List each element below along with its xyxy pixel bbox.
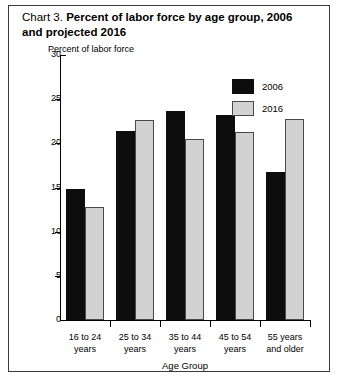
category-label-line1: 55 years <box>257 331 313 343</box>
y-axis-tick: 30 <box>0 55 61 56</box>
bar-2016 <box>235 132 254 320</box>
x-axis-category-label: 25 to 34years <box>107 331 163 355</box>
x-axis-tick-mark <box>260 321 261 327</box>
chart-title-main: Percent of labor force by age group, 200… <box>22 11 292 38</box>
y-axis-tick-label: 15 <box>15 182 61 192</box>
bar-2006 <box>266 172 285 320</box>
bar-2006 <box>66 189 85 320</box>
x-axis-tick-mark <box>210 321 211 327</box>
y-axis-tick: 15 <box>0 188 61 189</box>
category-label-line1: 45 to 54 <box>207 331 263 343</box>
bar-2006 <box>116 131 135 320</box>
legend-item: 2016 <box>232 101 283 116</box>
category-label-line2: years <box>207 343 263 355</box>
x-axis-tick-mark <box>110 321 111 327</box>
category-label-line2: years <box>107 343 163 355</box>
legend-label: 2016 <box>262 103 283 114</box>
x-axis-category-label: 45 to 54years <box>207 331 263 355</box>
y-axis-tick-label: 20 <box>15 137 61 147</box>
y-axis-tick: 25 <box>0 99 61 100</box>
chart-title: Chart 3. Percent of labor force by age g… <box>22 10 312 40</box>
category-label-line2: and older <box>257 343 313 355</box>
category-label-line1: 16 to 24 <box>57 331 113 343</box>
x-axis-category-label: 55 yearsand older <box>257 331 313 355</box>
legend-item: 2006 <box>232 79 283 94</box>
bar-2016 <box>85 207 104 320</box>
y-axis-tick-label: 25 <box>15 93 61 103</box>
x-axis-category-label: 16 to 24years <box>57 331 113 355</box>
y-axis-tick: 10 <box>0 232 61 233</box>
chart-legend: 20062016 <box>232 79 283 123</box>
bar-2006 <box>216 115 235 320</box>
x-axis-category-label: 35 to 44years <box>157 331 213 355</box>
y-axis-tick-label: 5 <box>15 270 61 280</box>
x-axis-tick-mark <box>310 321 311 327</box>
y-axis-tick: 20 <box>0 143 61 144</box>
category-label-line1: 25 to 34 <box>107 331 163 343</box>
legend-swatch <box>232 79 254 94</box>
bar-2006 <box>166 111 185 320</box>
y-axis-tick-label: 0 <box>15 314 61 324</box>
bar-2016 <box>185 139 204 320</box>
x-axis-line <box>60 320 311 321</box>
y-axis-tick-mark <box>60 320 66 321</box>
y-axis-tick-label: 10 <box>15 226 61 236</box>
category-label-line1: 35 to 44 <box>157 331 213 343</box>
chart-title-prefix: Chart 3. <box>22 11 63 23</box>
y-axis-tick-label: 30 <box>15 49 61 59</box>
bar-2016 <box>135 120 154 320</box>
x-axis-title: Age Group <box>60 360 310 371</box>
category-label-line2: years <box>57 343 113 355</box>
x-axis-tick-mark <box>160 321 161 327</box>
bar-2016 <box>285 119 304 320</box>
category-label-line2: years <box>157 343 213 355</box>
legend-swatch <box>232 101 254 116</box>
y-axis-tick: 5 <box>0 276 61 277</box>
chart-page: Chart 3. Percent of labor force by age g… <box>0 0 339 385</box>
legend-label: 2006 <box>262 81 283 92</box>
y-axis-tick: 0 <box>0 320 61 321</box>
